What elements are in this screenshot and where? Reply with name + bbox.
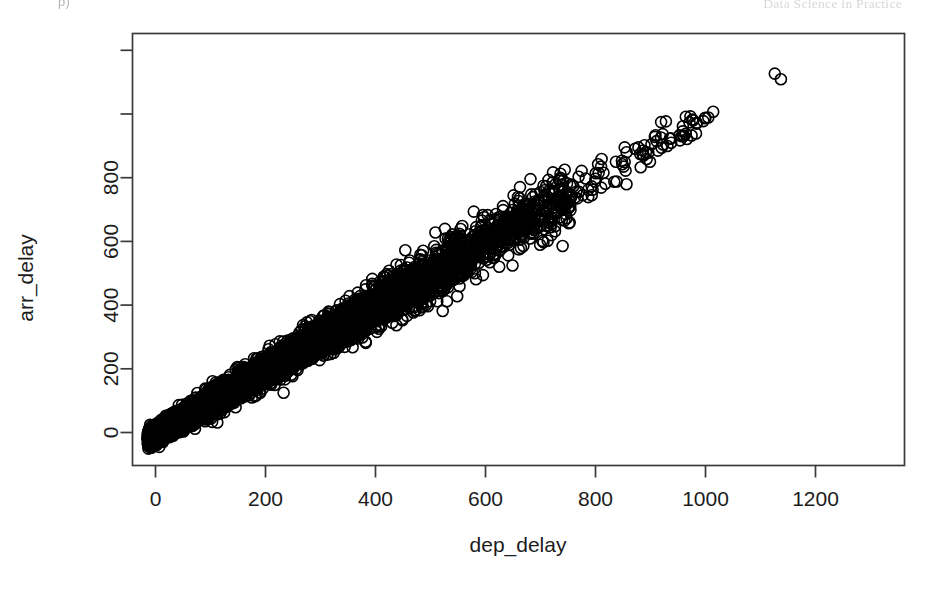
x-axis-title: dep_delay <box>470 533 567 557</box>
y-tick-label: 400 <box>99 288 122 323</box>
data-point <box>557 241 568 252</box>
data-point <box>525 174 536 185</box>
data-point <box>400 245 411 256</box>
x-tick-label: 1200 <box>792 487 839 510</box>
y-axis-title: arr_delay <box>14 234 38 322</box>
x-tick-label: 800 <box>578 487 613 510</box>
x-tick-label: 0 <box>150 487 162 510</box>
scatter-plot-figure: 020040060080010001200 0200400600800 dep_… <box>0 0 934 597</box>
plot-canvas: 020040060080010001200 0200400600800 dep_… <box>0 0 934 597</box>
data-point <box>452 291 463 302</box>
y-axis: 0200400600800 <box>99 50 133 438</box>
data-point <box>507 260 518 271</box>
y-tick-label: 600 <box>99 224 122 259</box>
data-point <box>278 387 289 398</box>
x-tick-label: 600 <box>468 487 503 510</box>
data-points-layer <box>142 68 786 454</box>
x-tick-label: 1000 <box>682 487 729 510</box>
x-tick-label: 200 <box>248 487 283 510</box>
x-axis: 020040060080010001200 <box>150 466 839 510</box>
x-tick-label: 400 <box>358 487 393 510</box>
y-tick-label: 0 <box>99 427 122 439</box>
y-tick-label: 800 <box>99 160 122 195</box>
y-tick-label: 200 <box>99 351 122 386</box>
data-point <box>430 227 441 238</box>
data-point <box>515 182 526 193</box>
